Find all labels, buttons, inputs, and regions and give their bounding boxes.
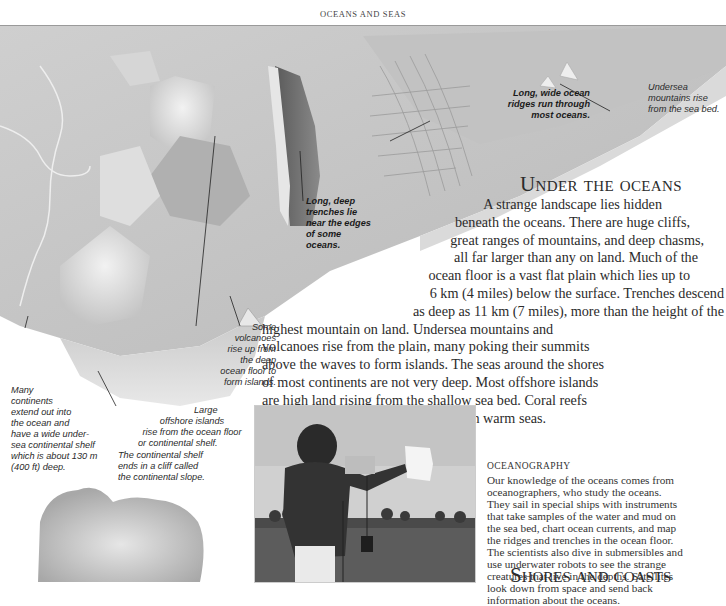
caption-undersea-mountains: Undersea mountains rise from the sea bed… — [648, 82, 726, 115]
running-title: OCEANS AND SEAS — [320, 9, 406, 19]
caption-continental-shelf: Many continents extend out into the ocea… — [11, 385, 111, 473]
oceanographer-photo — [254, 405, 476, 583]
section-heading-under-the-oceans: Under the oceans — [520, 172, 682, 197]
under-the-oceans-body: A strange landscape lies hidden beneath … — [262, 196, 726, 427]
section-heading-oceanography: OCEANOGRAPHY — [487, 461, 570, 471]
caption-continental-slope: The continental shelf ends in a cliff ca… — [118, 450, 228, 483]
photo-scene — [255, 406, 475, 582]
running-header: OCEANS AND SEAS — [0, 0, 726, 24]
caption-ocean-ridges: Long, wide ocean ridges run through most… — [486, 88, 590, 121]
caption-offshore-islands: Large offshore islands rise from the oce… — [136, 405, 248, 449]
section-heading-shores-and-coasts: Shores and coasts — [510, 563, 671, 588]
coastal-texture-image — [18, 482, 218, 582]
